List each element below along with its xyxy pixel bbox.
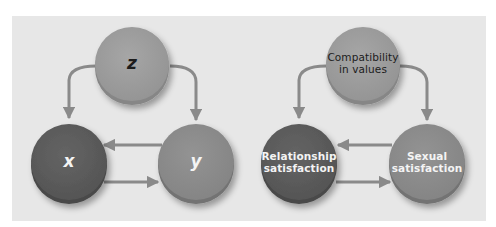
node-compatibility-in-values	[326, 27, 400, 105]
diagram-abstract	[31, 27, 234, 204]
causal-diagrams	[0, 0, 496, 227]
arrow-z-to-y	[170, 66, 196, 120]
arrow-compatibility-to-relationship	[299, 66, 326, 118]
node-sexual-satisfaction	[389, 124, 465, 204]
arrow-z-to-x	[69, 66, 96, 118]
node-x	[31, 124, 107, 204]
node-z	[95, 27, 169, 105]
arrow-compatibility-to-sexual	[400, 66, 427, 120]
node-y	[158, 124, 234, 204]
diagram-example	[261, 27, 465, 204]
node-relationship-satisfaction	[261, 124, 337, 204]
